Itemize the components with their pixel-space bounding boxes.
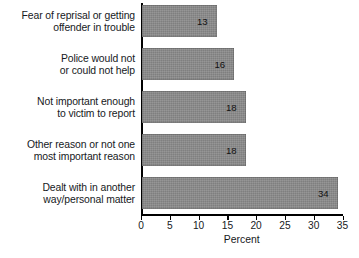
x-axis-tick-label: 5 [167,220,173,232]
category-label: Other reason or not one most important r… [4,139,135,163]
x-axis-tick-label: 35 [337,220,348,232]
bar-value-label: 34 [318,189,329,199]
x-axis-tick [256,216,257,220]
x-axis-tick-label: 0 [138,220,144,232]
x-axis-tick [285,216,286,220]
x-axis-tick [227,216,228,220]
bar-value-label: 13 [197,17,208,27]
x-axis-line [141,214,343,216]
x-axis-tick-label: 25 [279,220,290,232]
bar-chart: Fear of reprisal or getting offender in … [0,0,359,258]
x-axis-tick-label: 10 [193,220,204,232]
x-axis-tick [170,216,171,220]
plot-area: 13 16 18 18 34 0 5 10 15 20 25 30 35 Per… [141,0,359,258]
bar-dealt-with-another-way [142,177,338,209]
bar-value-label: 16 [215,60,226,70]
x-axis-tick-label: 20 [250,220,261,232]
x-axis-title: Percent [141,234,343,246]
x-axis-tick [314,216,315,220]
category-label: Fear of reprisal or getting offender in … [4,10,135,34]
category-label: Dealt with in another way/personal matte… [4,182,135,206]
bar-value-label: 18 [226,146,237,156]
x-axis-tick-label: 15 [222,220,233,232]
x-axis-tick [343,216,344,220]
x-axis-tick [141,216,142,220]
x-axis-tick-label: 30 [308,220,319,232]
category-label: Police would not or could not help [4,53,135,77]
x-axis-tick [199,216,200,220]
bar-value-label: 18 [226,103,237,113]
category-label: Not important enough to victim to report [4,96,135,120]
